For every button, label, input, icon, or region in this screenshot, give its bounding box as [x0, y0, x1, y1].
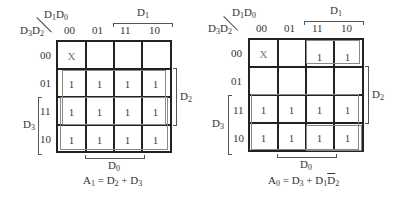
- equation-a0: A0 = D3 + D1D2: [268, 174, 339, 188]
- d3-bracket: [228, 95, 232, 155]
- kmap-a0: D1D0 D3D2 00 01 11 10 00 01 11 10 D1 D2 …: [0, 0, 402, 197]
- kmap-cell: 1: [250, 96, 277, 123]
- kmap-cell: 1: [334, 124, 361, 151]
- kmap-cell: 1: [306, 124, 333, 151]
- kmap-cell: 1: [334, 43, 361, 70]
- kmap-cell: 1: [278, 124, 305, 151]
- kmap-cell: [306, 68, 333, 95]
- row-header: 00: [231, 47, 242, 59]
- row-header: 11: [233, 104, 244, 116]
- kmap-cell: [334, 68, 361, 95]
- d2-bracket: [365, 66, 369, 124]
- kmap-cell: 1: [334, 96, 361, 123]
- kmap-cell: 1: [306, 96, 333, 123]
- d0-bracket-label: D0: [300, 158, 312, 172]
- kmap-cell: 1: [278, 96, 305, 123]
- d3-bracket-label: D3: [212, 117, 224, 131]
- col-header: 00: [256, 22, 267, 34]
- row-var-label: D3D2: [208, 22, 232, 36]
- row-header: 01: [231, 75, 242, 87]
- d1-bracket: [304, 21, 364, 25]
- kmap-cell: 1: [250, 124, 277, 151]
- col-header: 01: [284, 22, 295, 34]
- kmap-cell: [250, 68, 277, 95]
- d2-bracket-label: D2: [372, 88, 384, 102]
- d1-bracket-label: D1: [330, 4, 342, 18]
- kmap-cell: [278, 40, 305, 67]
- kmap-cell: [278, 68, 305, 95]
- row-header: 10: [233, 132, 244, 144]
- col-var-label: D1D0: [232, 6, 256, 20]
- kmap-cell: 1: [306, 43, 333, 70]
- kmap-cell: X: [250, 40, 277, 67]
